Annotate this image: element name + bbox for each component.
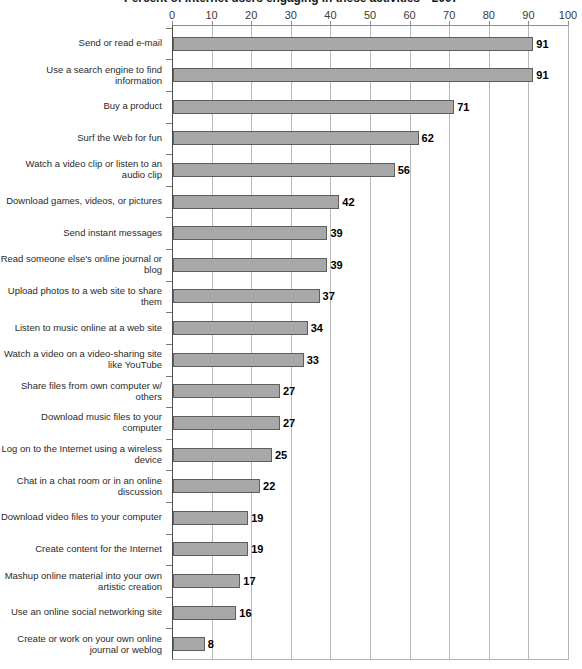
bar-value-label: 33 — [307, 353, 319, 367]
category-label: Listen to music online at a web site — [0, 323, 162, 334]
bar-value-label: 22 — [263, 479, 275, 493]
y-tick-mark — [166, 502, 172, 503]
bar-value-label: 19 — [251, 511, 263, 525]
x-tick-label-80: 80 — [483, 9, 495, 21]
bar — [173, 416, 280, 430]
category-label: Watch a video on a video-sharing site li… — [0, 349, 162, 370]
y-tick-mark — [166, 597, 172, 598]
bar — [173, 448, 272, 462]
category-label: Send instant messages — [0, 228, 162, 239]
category-label: Create or work on your own online journa… — [0, 634, 162, 655]
bar-value-label: 19 — [251, 542, 263, 556]
x-tick-label-30: 30 — [285, 9, 297, 21]
bars-layer: 919171625642393937343327272522191917168 — [173, 26, 569, 659]
bar-chart: Percent of Internet users engaging in th… — [0, 0, 582, 669]
bar — [173, 574, 240, 588]
bar-value-label: 39 — [330, 226, 342, 240]
category-label: Mashup online material into your own art… — [0, 571, 162, 592]
bar — [173, 226, 327, 240]
y-tick-mark — [166, 91, 172, 92]
y-tick-mark — [166, 154, 172, 155]
bar — [173, 384, 280, 398]
bar — [173, 163, 395, 177]
y-tick-mark — [166, 407, 172, 408]
bar-value-label: 34 — [311, 321, 323, 335]
x-tick-label-50: 50 — [364, 9, 376, 21]
bar-value-label: 25 — [275, 448, 287, 462]
bar — [173, 289, 320, 303]
y-tick-mark — [166, 59, 172, 60]
category-label: Read someone else's online journal or bl… — [0, 254, 162, 275]
bar-value-label: 91 — [536, 37, 548, 51]
category-label: Share files from own computer w/ others — [0, 381, 162, 402]
y-tick-mark — [166, 344, 172, 345]
bar-value-label: 17 — [243, 574, 255, 588]
y-tick-mark — [166, 376, 172, 377]
bar — [173, 321, 308, 335]
category-label: Download music files to your computer — [0, 412, 162, 433]
y-tick-mark — [166, 439, 172, 440]
y-tick-mark — [166, 186, 172, 187]
x-tick-label-90: 90 — [522, 9, 534, 21]
x-tick-label-20: 20 — [245, 9, 257, 21]
bar-value-label: 16 — [239, 606, 251, 620]
category-label: Watch a video clip or listen to an audio… — [0, 159, 162, 180]
x-tick-label-10: 10 — [205, 9, 217, 21]
y-tick-mark — [166, 249, 172, 250]
category-label: Use a search engine to find information — [0, 65, 162, 86]
bar-value-label: 62 — [422, 131, 434, 145]
y-axis-tick-marks — [166, 25, 173, 660]
bar-value-label: 56 — [398, 163, 410, 177]
category-label: Create content for the Internet — [0, 544, 162, 555]
bar — [173, 511, 248, 525]
y-tick-mark — [166, 312, 172, 313]
bar — [173, 542, 248, 556]
category-label: Surf the Web for fun — [0, 133, 162, 144]
y-tick-mark — [166, 28, 172, 29]
bar — [173, 606, 236, 620]
category-label: Download video files to your computer — [0, 512, 162, 523]
bar-value-label: 27 — [283, 384, 295, 398]
bar-value-label: 8 — [208, 637, 214, 651]
x-tick-label-70: 70 — [443, 9, 455, 21]
bar-value-label: 42 — [342, 195, 354, 209]
y-tick-mark — [166, 217, 172, 218]
x-tick-label-0: 0 — [169, 9, 175, 21]
category-label: Chat in a chat room or in an online disc… — [0, 476, 162, 497]
chart-title: Percent of Internet users engaging in th… — [0, 0, 582, 5]
bar — [173, 258, 327, 272]
category-label: Send or read e-mail — [0, 38, 162, 49]
y-tick-mark — [166, 470, 172, 471]
bar-value-label: 27 — [283, 416, 295, 430]
x-tick-label-100: 100 — [559, 9, 577, 21]
bar — [173, 353, 304, 367]
y-axis-category-labels: Send or read e-mailUse a search engine t… — [0, 26, 166, 659]
y-tick-mark — [166, 123, 172, 124]
bar — [173, 637, 205, 651]
category-label: Download games, videos, or pictures — [0, 196, 162, 207]
bar — [173, 131, 419, 145]
y-tick-mark — [166, 565, 172, 566]
bar-value-label: 37 — [323, 289, 335, 303]
category-label: Upload photos to a web site to share the… — [0, 286, 162, 307]
category-label: Log on to the Internet using a wireless … — [0, 444, 162, 465]
y-tick-mark — [166, 534, 172, 535]
y-tick-mark — [166, 628, 172, 629]
x-tick-label-40: 40 — [324, 9, 336, 21]
bar-value-label: 39 — [330, 258, 342, 272]
bar — [173, 37, 533, 51]
category-label: Buy a product — [0, 101, 162, 112]
bar — [173, 100, 454, 114]
bar-value-label: 71 — [457, 100, 469, 114]
category-label: Use an online social networking site — [0, 607, 162, 618]
bar-value-label: 91 — [536, 68, 548, 82]
bar — [173, 195, 339, 209]
bar — [173, 68, 533, 82]
bar — [173, 479, 260, 493]
y-tick-mark — [166, 281, 172, 282]
x-tick-label-60: 60 — [403, 9, 415, 21]
